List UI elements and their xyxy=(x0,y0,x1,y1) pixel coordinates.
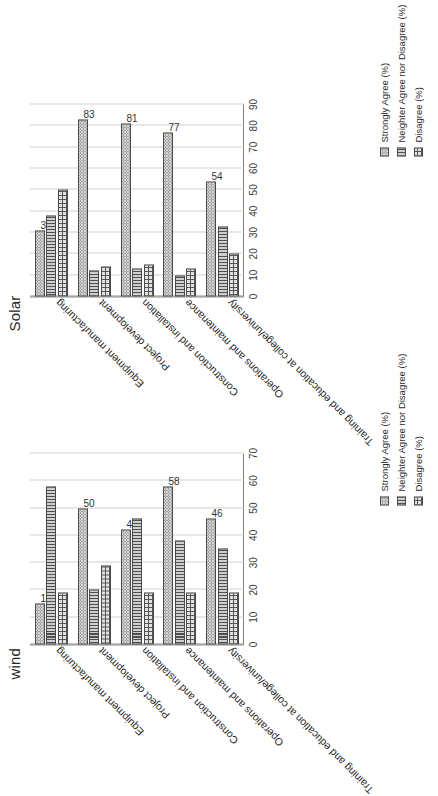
axis-tick-label: 60 xyxy=(248,475,259,486)
bar xyxy=(46,486,56,644)
legend-label: Disagree (%) xyxy=(413,87,424,142)
bar xyxy=(163,132,173,296)
data-label: 83 xyxy=(83,108,94,119)
bar xyxy=(218,549,228,645)
axis-tick-label: 20 xyxy=(248,248,259,259)
bar xyxy=(229,253,239,296)
bar xyxy=(175,540,185,644)
bar xyxy=(163,486,173,644)
chart-title-solar: Solar xyxy=(6,295,23,331)
gridline xyxy=(30,103,244,104)
legend-swatch-icon xyxy=(380,147,389,156)
category-label: Project development xyxy=(96,645,172,721)
bar xyxy=(58,189,68,296)
bar xyxy=(206,181,216,296)
bar xyxy=(132,268,142,296)
bar xyxy=(78,508,88,644)
legend-swatch-icon xyxy=(414,496,423,505)
bar xyxy=(89,589,99,644)
bar xyxy=(35,603,45,644)
bar xyxy=(35,230,45,296)
legend-item: Neighter Agree nor Disagree (%) xyxy=(396,6,407,156)
category-label: Training and education at college/univer… xyxy=(224,645,375,796)
data-label: 50 xyxy=(83,497,94,508)
axis-tick-label: 20 xyxy=(248,584,259,595)
bar xyxy=(186,268,196,296)
axis-tick-label: 10 xyxy=(248,611,259,622)
legend-item: Strongly Agree (%) xyxy=(379,355,390,505)
axis-tick-label: 90 xyxy=(248,98,259,109)
axis-tick-label: 70 xyxy=(248,447,259,458)
legend-swatch-icon xyxy=(380,496,389,505)
legend-label: Neighter Agree nor Disagree (%) xyxy=(396,353,407,491)
legend-label: Neighter Agree nor Disagree (%) xyxy=(396,4,407,142)
legend-swatch-icon xyxy=(397,147,406,156)
bar xyxy=(58,592,68,644)
axis-tick-label: 60 xyxy=(248,162,259,173)
axis-tick-label: 30 xyxy=(248,226,259,237)
category-label: Equipment manufacturing xyxy=(53,645,146,738)
bar xyxy=(144,264,154,296)
chart-panel-solar: Solar 01020304050607080903183817754 Stro… xyxy=(0,0,438,349)
bar xyxy=(229,592,239,644)
axis-baseline xyxy=(243,104,244,296)
legend-item: Disagree (%) xyxy=(413,355,424,505)
bar xyxy=(78,119,88,296)
axis-tick-label: 0 xyxy=(248,293,259,299)
axis-tick-label: 10 xyxy=(248,269,259,280)
legend-swatch-icon xyxy=(414,147,423,156)
bar xyxy=(46,215,56,296)
bar xyxy=(89,270,99,296)
data-label: 58 xyxy=(169,475,180,486)
chart-panel-wind: wind 0102030405060701550425846 Strongly … xyxy=(0,349,438,697)
bar xyxy=(121,529,131,644)
bar xyxy=(132,519,142,645)
bar xyxy=(121,123,131,296)
data-label: 77 xyxy=(169,121,180,132)
bar xyxy=(101,266,111,296)
bar xyxy=(144,592,154,644)
plot-area-solar: 01020304050607080903183817754 xyxy=(30,104,244,297)
legend-label: Strongly Agree (%) xyxy=(379,411,390,491)
legend-item: Disagree (%) xyxy=(413,6,424,156)
bar xyxy=(175,275,185,296)
gridline xyxy=(30,452,244,453)
data-label: 46 xyxy=(212,508,223,519)
legend-label: Strongly Agree (%) xyxy=(379,62,390,142)
legend-item: Neighter Agree nor Disagree (%) xyxy=(396,355,407,505)
gridline xyxy=(30,479,244,480)
bar xyxy=(101,565,111,644)
gridline xyxy=(30,124,244,125)
axis-tick-label: 0 xyxy=(248,641,259,647)
axis-tick-label: 40 xyxy=(248,529,259,540)
axis-tick-label: 80 xyxy=(248,120,259,131)
axis-tick-label: 40 xyxy=(248,205,259,216)
axis-tick-label: 70 xyxy=(248,141,259,152)
bar xyxy=(218,226,228,296)
bar xyxy=(186,592,196,644)
legend-item: Strongly Agree (%) xyxy=(379,6,390,156)
legend-solar: Strongly Agree (%)Neighter Agree nor Dis… xyxy=(379,6,424,156)
chart-title-wind: wind xyxy=(6,647,23,679)
axis-tick-label: 50 xyxy=(248,184,259,195)
plot-area-wind: 0102030405060701550425846 xyxy=(30,453,244,645)
axis-tick-label: 50 xyxy=(248,502,259,513)
bar xyxy=(206,519,216,645)
data-label: 81 xyxy=(126,113,137,124)
legend-swatch-icon xyxy=(397,496,406,505)
legend-label: Disagree (%) xyxy=(413,436,424,491)
axis-tick-label: 30 xyxy=(248,557,259,568)
legend-wind: Strongly Agree (%)Neighter Agree nor Dis… xyxy=(379,355,424,505)
data-label: 54 xyxy=(212,170,223,181)
gridline xyxy=(30,146,244,147)
gridline xyxy=(30,167,244,168)
